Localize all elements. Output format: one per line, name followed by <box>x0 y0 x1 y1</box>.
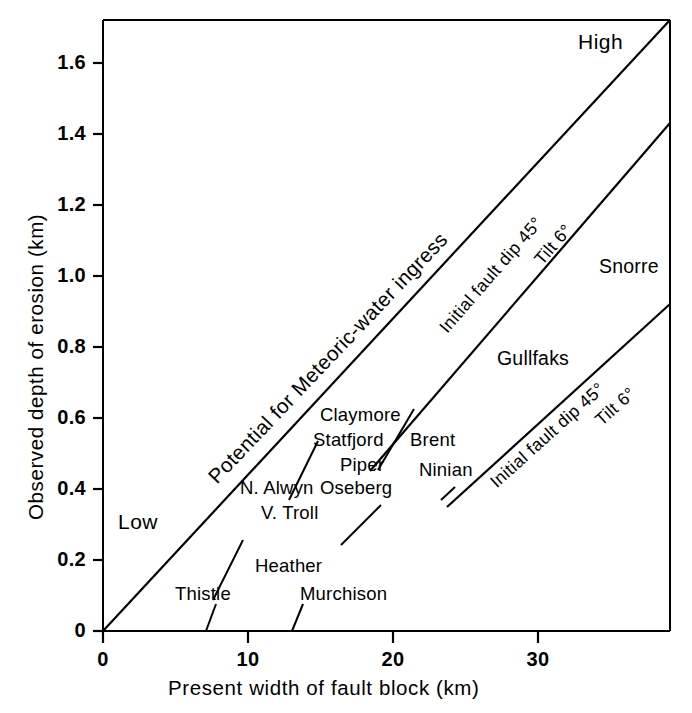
data-label-claymore: Claymore <box>320 404 401 426</box>
data-label-statfjord: Statfjord <box>313 429 384 451</box>
data-label-brent: Brent <box>410 429 455 451</box>
chart-figure: Observed depth of erosion (km) Present w… <box>0 0 692 713</box>
y-tick-label-1.4: 1.4 <box>28 122 86 145</box>
x-tick-label-20: 20 <box>363 648 423 671</box>
zone-label-low: Low <box>118 510 158 534</box>
trend-line-fault-dip-lower <box>447 304 670 507</box>
x-tick-label-10: 10 <box>218 648 278 671</box>
data-label-v-troll: V. Troll <box>261 502 318 524</box>
data-label-n-alwyn: N. Alwyn <box>240 477 314 499</box>
y-tick-label-1.0: 1.0 <box>28 264 86 287</box>
y-tick-label-0.8: 0.8 <box>28 335 86 358</box>
leader-line-oseberg <box>341 505 381 545</box>
x-axis-ticks <box>103 631 538 643</box>
y-axis-title: Observed depth of erosion (km) <box>24 214 48 520</box>
leader-line-murchison <box>292 604 303 631</box>
chart-canvas <box>0 0 692 713</box>
y-tick-label-0: 0 <box>28 619 86 642</box>
zone-label-high: High <box>578 30 623 54</box>
data-label-gullfaks: Gullfaks <box>497 347 569 370</box>
y-tick-label-0.4: 0.4 <box>28 477 86 500</box>
trend-line-fault-dip-upper <box>370 123 670 471</box>
y-axis-ticks <box>93 63 103 631</box>
x-axis-title: Present width of fault block (km) <box>168 676 479 700</box>
data-label-heather: Heather <box>255 555 322 577</box>
data-label-oseberg: Oseberg <box>320 477 392 499</box>
data-label-ninian: Ninian <box>419 459 473 481</box>
data-label-thistle: Thistle <box>175 583 231 605</box>
data-label-snorre: Snorre <box>599 255 659 278</box>
y-tick-label-1.2: 1.2 <box>28 193 86 216</box>
y-tick-label-1.6: 1.6 <box>28 51 86 74</box>
x-tick-label-30: 30 <box>508 648 568 671</box>
data-label-piper: Piper <box>340 454 384 476</box>
data-label-murchison: Murchison <box>300 583 387 605</box>
trend-line-meteoric-ingress <box>103 20 670 631</box>
y-tick-label-0.6: 0.6 <box>28 406 86 429</box>
leader-line-brent <box>441 487 455 500</box>
y-tick-label-0.2: 0.2 <box>28 548 86 571</box>
x-tick-label-0: 0 <box>73 648 133 671</box>
leader-line-thistle <box>206 604 216 631</box>
